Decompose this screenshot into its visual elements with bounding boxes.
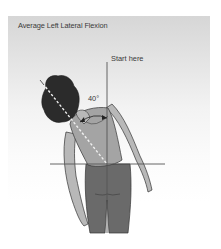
head-illustration — [42, 75, 79, 122]
spine-line-tip — [40, 80, 44, 85]
start-here-label: Start here — [111, 54, 143, 63]
pants-illustration — [85, 164, 131, 233]
lateral-flexion-figure — [0, 0, 221, 249]
angle-label: 40° — [88, 94, 99, 103]
